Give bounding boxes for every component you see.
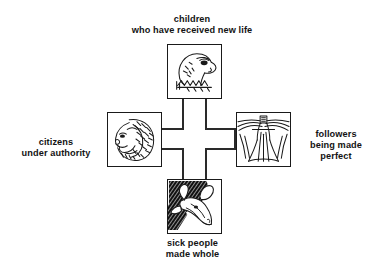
label-top: children who have received new life <box>122 14 262 36</box>
lion-head-icon <box>108 113 161 166</box>
label-bottom: sick people made whole <box>125 238 260 260</box>
node-panel-top <box>167 44 222 99</box>
cross-diagram: children who have received new life citi… <box>0 0 384 272</box>
ox-head-icon <box>168 180 221 233</box>
label-left: citizens under authority <box>8 137 104 159</box>
node-panel-left <box>107 112 162 167</box>
winged-man-icon <box>237 113 290 166</box>
label-right: followers being made perfect <box>296 129 376 162</box>
node-panel-bottom <box>167 179 222 234</box>
eagle-head-icon <box>168 45 221 98</box>
node-panel-right <box>236 112 291 167</box>
